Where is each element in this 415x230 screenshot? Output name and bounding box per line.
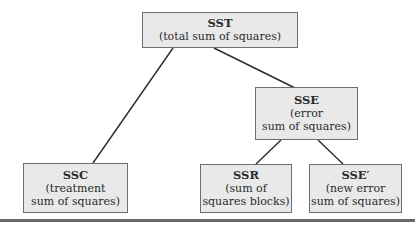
node-sst: SST (total sum of squares) [142, 12, 298, 48]
node-ssr: SSR (sum of squares blocks) [200, 164, 292, 213]
node-ssc-label-2: sum of squares) [31, 195, 120, 208]
node-sse: SSE (error sum of squares) [255, 87, 358, 140]
node-sse-prime-title: SSE′ [341, 169, 369, 182]
node-ssc-title: SSC [63, 169, 89, 182]
node-sst-title: SST [208, 17, 233, 30]
edge-sse-sseprime [318, 140, 343, 164]
node-sse-title: SSE [294, 94, 319, 107]
node-ssr-title: SSR [233, 169, 259, 182]
node-sse-prime-label-1: (new error [326, 182, 386, 195]
edge-sst-ssc [93, 48, 173, 163]
node-ssc-label-1: (treatment [46, 182, 106, 195]
node-ssr-label-2: squares blocks) [202, 195, 289, 208]
edge-sse-ssr [256, 140, 281, 164]
node-sse-prime: SSE′ (new error sum of squares) [309, 164, 402, 213]
bottom-divider [0, 219, 415, 222]
node-sse-prime-label-2: sum of squares) [311, 195, 400, 208]
node-ssc: SSC (treatment sum of squares) [23, 163, 128, 213]
node-sse-label-2: sum of squares) [262, 120, 351, 133]
node-sse-label-1: (error [290, 107, 323, 120]
node-ssr-label-1: (sum of [225, 182, 267, 195]
node-sst-label: (total sum of squares) [159, 30, 281, 43]
edge-sst-sse [214, 48, 295, 88]
